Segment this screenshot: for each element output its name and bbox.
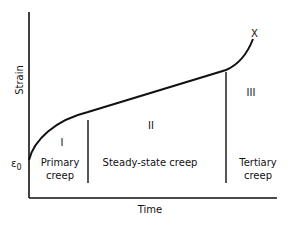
stage-1-label-line1: Primary	[41, 157, 80, 168]
y-axis-label: Strain	[14, 65, 25, 95]
initial-strain-label: ε0	[11, 158, 22, 172]
stage-2-label: Steady-state creep	[103, 157, 198, 168]
stage-3-numeral: III	[247, 87, 256, 98]
stage-3-label-line2: creep	[244, 170, 272, 181]
stage-1-label-line2: creep	[46, 170, 74, 181]
stage-1-numeral: I	[61, 137, 64, 148]
creep-curve-diagram: X Strain Time ε0 I Primary creep II Stea…	[0, 0, 291, 225]
x-axis-label: Time	[137, 204, 162, 215]
stage-2-numeral: II	[148, 120, 154, 131]
fracture-marker: X	[251, 28, 258, 39]
stage-3-label-line1: Tertiary	[238, 157, 277, 168]
